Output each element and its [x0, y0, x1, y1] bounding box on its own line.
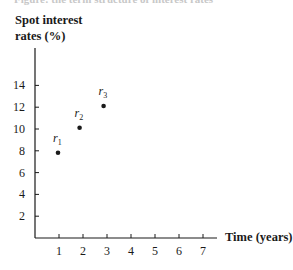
x-tick-label: 1 [56, 244, 62, 258]
y-tick-label: 12 [13, 100, 25, 114]
scatter-plot: 1234567 2468101214 r1r2r3 [0, 0, 293, 270]
y-tick-label: 4 [19, 187, 25, 201]
x-tick-label: 3 [104, 244, 110, 258]
x-tick-label: 2 [80, 244, 86, 258]
data-points: r1r2r3 [53, 84, 107, 155]
data-point-label: r3 [99, 84, 108, 100]
x-tick-label: 4 [128, 244, 134, 258]
y-tick-label: 10 [13, 122, 25, 136]
y-tick-label: 14 [13, 78, 25, 92]
y-tick-label: 6 [19, 166, 25, 180]
x-tick-label: 6 [176, 244, 182, 258]
axes [35, 48, 217, 238]
data-point [77, 125, 82, 130]
x-tick-label: 7 [200, 244, 206, 258]
data-point [56, 151, 61, 156]
y-tick-label: 2 [19, 209, 25, 223]
data-point [101, 104, 106, 109]
data-point-label: r1 [53, 131, 62, 147]
data-point-label: r2 [75, 106, 84, 122]
y-tick-label: 8 [19, 144, 25, 158]
x-tick-label: 5 [152, 244, 158, 258]
